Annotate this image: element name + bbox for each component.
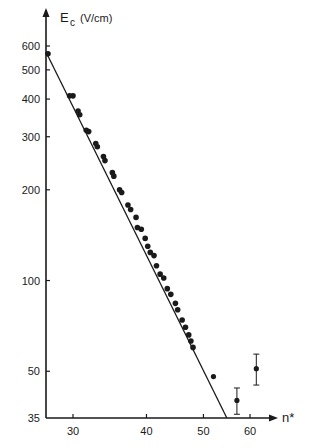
- data-points: [45, 51, 259, 414]
- y-tick-label: 200: [22, 184, 40, 196]
- x-tick-label: 30: [67, 425, 79, 437]
- data-point: [186, 332, 192, 338]
- y-tick-label: 35: [28, 412, 40, 424]
- data-point: [173, 301, 179, 307]
- data-point: [168, 292, 174, 298]
- data-point: [164, 286, 170, 292]
- data-point: [175, 307, 181, 313]
- data-point: [151, 253, 157, 259]
- y-tick-label: 500: [22, 64, 40, 76]
- data-point: [161, 275, 167, 281]
- x-axis-title: n*: [282, 410, 294, 425]
- x-tick-label: 60: [244, 425, 256, 437]
- y-tick-label: 100: [22, 275, 40, 287]
- regression-line: [46, 52, 227, 418]
- data-point: [77, 112, 83, 118]
- y-tick-label: 400: [22, 93, 40, 105]
- data-point: [133, 215, 139, 221]
- y-tick-label: 50: [28, 365, 40, 377]
- data-point: [183, 324, 189, 330]
- x-tick-label: 40: [140, 425, 152, 437]
- data-point: [154, 263, 160, 269]
- y-axis-arrow-icon: [43, 8, 50, 17]
- data-point: [139, 226, 145, 232]
- data-point: [102, 158, 108, 164]
- data-point: [234, 398, 239, 403]
- x-axis-arrow-icon: [269, 415, 278, 422]
- y-axis-title-main: E: [60, 10, 69, 25]
- x-tick-label: 50: [197, 425, 209, 437]
- y-tick-label: 600: [22, 40, 40, 52]
- axes: [43, 8, 279, 422]
- chart: 6005004003002001005035 30405060 E c (V/c…: [0, 0, 309, 448]
- data-point: [188, 338, 194, 344]
- data-point: [211, 374, 216, 379]
- y-axis-title-unit: (V/cm): [80, 12, 112, 24]
- data-point: [95, 144, 101, 150]
- data-point: [190, 345, 196, 351]
- data-point: [128, 207, 134, 213]
- data-point: [179, 317, 185, 323]
- y-axis-title: E c (V/cm): [60, 10, 112, 28]
- data-point: [145, 243, 151, 249]
- data-point: [142, 236, 148, 242]
- data-point: [70, 93, 76, 99]
- y-tick-label: 300: [22, 131, 40, 143]
- data-point: [45, 51, 51, 57]
- data-point: [254, 366, 259, 371]
- data-point: [86, 129, 92, 135]
- data-point: [119, 190, 125, 196]
- y-axis-title-sub: c: [70, 17, 75, 28]
- fit-line: [46, 52, 227, 418]
- data-point: [111, 173, 117, 179]
